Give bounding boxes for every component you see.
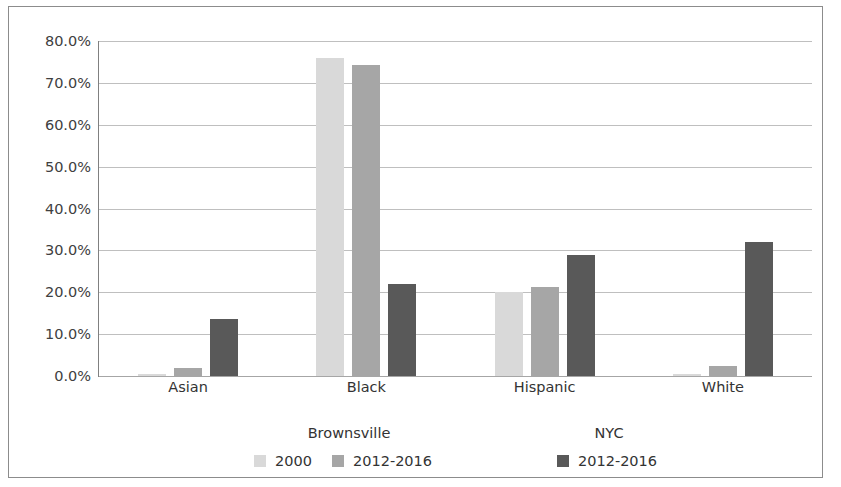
x-axis-tick-labels: AsianBlackHispanicWhite <box>99 379 812 403</box>
axis-baseline <box>99 376 812 377</box>
legend-swatch-icon <box>254 455 266 467</box>
legend-swatch-icon <box>332 455 344 467</box>
legend-entry[interactable]: 2000 <box>254 453 312 469</box>
y-tick-label: 70.0% <box>17 75 91 91</box>
legend-label: 2012-2016 <box>353 453 432 469</box>
bar-group <box>495 41 595 376</box>
legend-swatch-icon <box>557 455 569 467</box>
bar <box>352 65 380 376</box>
bar <box>210 319 238 376</box>
bar <box>531 287 559 376</box>
bar <box>388 284 416 376</box>
bar <box>745 242 773 376</box>
bar <box>495 292 523 376</box>
legend-entry[interactable]: 2012-2016 <box>557 453 657 469</box>
bar-group <box>673 41 773 376</box>
x-tick-label: Black <box>347 379 386 395</box>
bar <box>174 368 202 376</box>
y-tick-label: 10.0% <box>17 326 91 342</box>
bar <box>673 374 701 376</box>
y-tick-label: 50.0% <box>17 159 91 175</box>
bar-group <box>138 41 238 376</box>
chart-container: 80.0%70.0%60.0%50.0%40.0%30.0%20.0%10.0%… <box>8 6 823 478</box>
bar <box>567 255 595 376</box>
chart-legend: BrownsvilleNYC20002012-20162012-2016 <box>9 425 824 477</box>
bar-group <box>316 41 416 376</box>
y-tick-label: 30.0% <box>17 242 91 258</box>
y-tick-label: 40.0% <box>17 201 91 217</box>
legend-group-title: NYC <box>594 425 623 441</box>
y-tick-label: 0.0% <box>17 368 91 384</box>
bar <box>138 374 166 376</box>
y-axis-tick-labels: 80.0%70.0%60.0%50.0%40.0%30.0%20.0%10.0%… <box>9 41 91 376</box>
y-tick-label: 80.0% <box>17 33 91 49</box>
plot-area <box>99 41 812 376</box>
bar <box>316 58 344 376</box>
legend-label: 2012-2016 <box>578 453 657 469</box>
x-tick-label: Hispanic <box>514 379 576 395</box>
bar <box>709 366 737 376</box>
y-tick-label: 60.0% <box>17 117 91 133</box>
legend-label: 2000 <box>275 453 312 469</box>
y-tick-label: 20.0% <box>17 284 91 300</box>
legend-group-title: Brownsville <box>308 425 391 441</box>
x-tick-label: Asian <box>168 379 208 395</box>
x-tick-label: White <box>702 379 744 395</box>
legend-entry[interactable]: 2012-2016 <box>332 453 432 469</box>
